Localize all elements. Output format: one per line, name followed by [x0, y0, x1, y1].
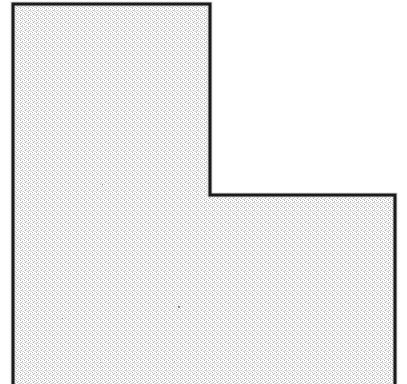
speck-mid-lower: [100, 362, 101, 363]
speck-mid-right: [174, 361, 175, 362]
speck-left-lower: [49, 330, 50, 331]
speck-upper-mid: [178, 306, 180, 308]
speck-vertical-arm: [102, 184, 103, 185]
polygon-figure-svg: [0, 0, 407, 384]
figure-canvas: [0, 0, 407, 384]
speck-center: [62, 318, 63, 319]
